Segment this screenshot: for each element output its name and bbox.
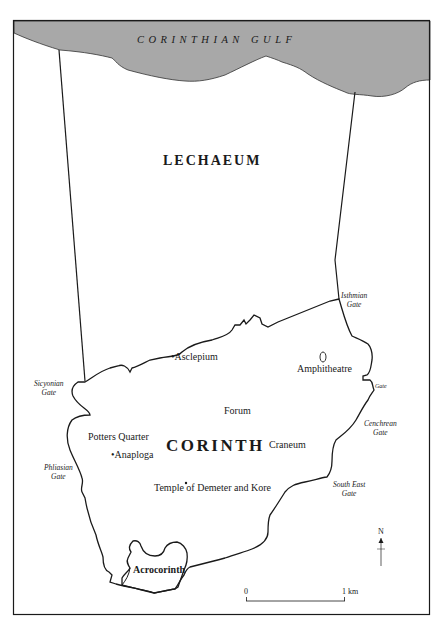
- gate-label-south-east: South East Gate: [333, 480, 365, 498]
- gate-label-isthmian-line1: Isthmian: [341, 291, 367, 300]
- gate-label-cenchrean-line2: Gate: [364, 428, 397, 437]
- site-label-potters-quarter: Potters Quarter: [88, 432, 149, 442]
- scale-end-label: 1 km: [342, 588, 358, 596]
- gate-label-sicyonian-line2: Gate: [34, 388, 64, 397]
- site-label-asclepium: •Asclepium: [171, 352, 218, 362]
- gate-label-isthmian-line2: Gate: [341, 300, 367, 309]
- scale-bar: [246, 597, 345, 601]
- region-label-lechaeum: LECHAEUM: [163, 154, 261, 168]
- region-label-corinth: CORINTH: [166, 437, 265, 454]
- gate-label-sicyonian-line1: Sicyonian: [34, 379, 64, 388]
- gate-label-gate: Gate: [375, 383, 387, 390]
- site-label-forum: Forum: [224, 406, 251, 416]
- gate-label-south-east-line1: South East: [333, 480, 365, 489]
- gate-label-isthmian: Isthmian Gate: [341, 291, 367, 309]
- gate-label-phliasian: Phliasian Gate: [44, 463, 73, 481]
- gate-label-phliasian-line2: Gate: [44, 472, 73, 481]
- site-label-craneum: Craneum: [269, 440, 306, 450]
- gate-label-cenchrean: Cenchrean Gate: [364, 419, 397, 437]
- gate-label-gate-line1: Gate: [375, 383, 387, 390]
- map-frame: [14, 21, 430, 615]
- long-wall-west: [59, 50, 85, 381]
- scale-start-label: 0: [244, 588, 248, 596]
- gate-label-phliasian-line1: Phliasian: [44, 463, 73, 472]
- north-arrow-icon: [377, 538, 385, 566]
- site-label-amphitheatre: Amphitheatre: [297, 364, 352, 374]
- corinthian-gulf-label: CORINTHIAN GULF: [137, 35, 296, 46]
- long-wall-east: [335, 92, 355, 299]
- north-label: N: [378, 528, 384, 536]
- region-label-acrocorinth: Acrocorinth: [133, 565, 185, 575]
- site-label-temple: Temple of Demeter and Kore: [154, 483, 271, 493]
- gate-label-south-east-line2: Gate: [333, 489, 365, 498]
- corinthian-gulf-sea: [14, 21, 430, 97]
- site-label-anaploga: •Anaploga: [111, 450, 153, 460]
- gate-label-sicyonian: Sicyonian Gate: [34, 379, 64, 397]
- map-canvas: [0, 0, 442, 631]
- gate-label-cenchrean-line1: Cenchrean: [364, 419, 397, 428]
- amphitheatre-icon: [320, 352, 326, 362]
